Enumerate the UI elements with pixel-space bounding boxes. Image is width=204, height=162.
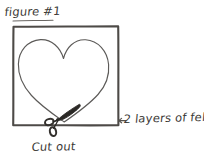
felt-square-outline — [13, 26, 118, 125]
figure-sketch: figure #1 2 layers of felt Cut out — [0, 0, 204, 162]
felt-layers-label: 2 layers of felt — [123, 110, 204, 126]
sketch-canvas — [0, 0, 204, 162]
cut-out-label: Cut out — [31, 139, 76, 154]
heart-outline — [18, 40, 108, 122]
title-underline — [13, 20, 53, 21]
figure-title-label: figure #1 — [4, 4, 61, 19]
